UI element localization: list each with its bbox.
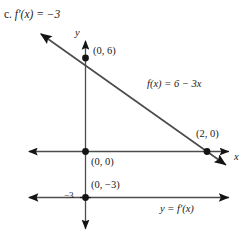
- derivative-graph-figure: c. f′(x) = −3 y x (0, 6) (2, 0) (0, 0) (…: [0, 0, 250, 239]
- point-label-0-6: (0, 6): [93, 46, 116, 57]
- part-label: c. f′(x) = −3: [4, 9, 60, 21]
- x-axis-label: x: [234, 152, 239, 163]
- point-0-minus3: [82, 194, 89, 201]
- y-tick-label-minus3: −3: [64, 191, 74, 200]
- point-origin: [82, 148, 89, 155]
- graph-canvas: [0, 0, 250, 239]
- derivative-annotation: y = f′(x): [160, 204, 194, 215]
- function-line: [41, 34, 226, 165]
- y-axis-label: y: [75, 28, 80, 39]
- part-letter: c.: [4, 8, 12, 20]
- point-label-origin: (0, 0): [91, 157, 114, 168]
- point-2-0: [204, 148, 211, 155]
- function-annotation: f(x) = 6 − 3x: [147, 79, 201, 90]
- point-0-6: [82, 55, 89, 62]
- point-label-2-0: (2, 0): [196, 129, 219, 140]
- point-label-0-minus3: (0, −3): [91, 180, 120, 191]
- part-expression: f′(x) = −3: [15, 8, 61, 20]
